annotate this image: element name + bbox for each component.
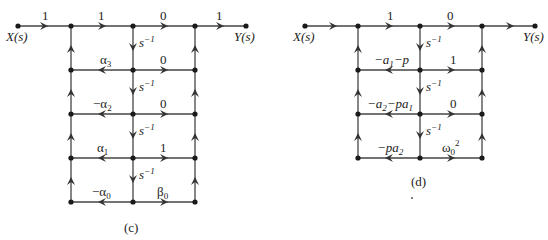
svg-text:s−1: s−1 bbox=[426, 122, 442, 138]
input-label: X(s) bbox=[5, 29, 28, 44]
gain-label: 1 bbox=[42, 8, 49, 23]
integrator-labels-c: s−1 s−1 s−1 s−1 bbox=[139, 34, 155, 182]
row-right-gain: 0 bbox=[160, 52, 167, 67]
gain-label: 0 bbox=[160, 8, 167, 23]
svg-text:s−1: s−1 bbox=[426, 34, 442, 50]
row-left-gain: α3 bbox=[100, 52, 112, 69]
svg-text:s−1: s−1 bbox=[426, 78, 442, 94]
gain-label: 1 bbox=[387, 8, 394, 23]
gain-label: 1 bbox=[98, 8, 105, 23]
row-left-gain: −a1−p bbox=[374, 52, 410, 69]
signal-flow-graphs-figure: 1 1 0 1 X(s) Y(s) s−1 s−1 s−1 s−1 α3 0 −… bbox=[0, 0, 548, 240]
row-right-gain: 1 bbox=[450, 52, 457, 67]
caption-c: (c) bbox=[124, 220, 138, 235]
svg-text:s−1: s−1 bbox=[139, 78, 155, 94]
row-left-gain: −pa2 bbox=[377, 140, 404, 157]
gain-label: 0 bbox=[447, 8, 454, 23]
svg-text:s−1: s−1 bbox=[139, 166, 155, 182]
row-right-gain: 0 bbox=[160, 96, 167, 111]
integrator-labels-d: s−1 s−1 s−1 bbox=[426, 34, 442, 138]
svg-text:s−1: s−1 bbox=[139, 34, 155, 50]
svg-text:s−1: s−1 bbox=[139, 122, 155, 138]
diagram-svg: 1 1 0 1 X(s) Y(s) s−1 s−1 s−1 s−1 α3 0 −… bbox=[0, 0, 548, 240]
row-right-gain: ω02 bbox=[442, 138, 460, 157]
row-right-gain: 0 bbox=[450, 96, 457, 111]
diagram-d-arrows bbox=[329, 22, 514, 162]
row-left-gain: −α2 bbox=[93, 96, 112, 113]
row-left-gain: −a2−pa1 bbox=[367, 96, 413, 113]
gain-label: 1 bbox=[216, 8, 223, 23]
row-left-gain: α1 bbox=[97, 140, 108, 157]
input-label: X(s) bbox=[292, 29, 315, 44]
caption-d: (d) bbox=[411, 174, 426, 189]
row-right-gain: 1 bbox=[160, 140, 167, 155]
row-left-gain: −α0 bbox=[92, 184, 111, 201]
output-label: Y(s) bbox=[523, 29, 544, 44]
output-label: Y(s) bbox=[234, 29, 255, 44]
row-right-gain: β0 bbox=[157, 184, 169, 201]
